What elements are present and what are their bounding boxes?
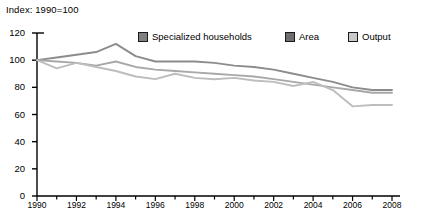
chart-container: Index: 1990=100 Specialized households A… xyxy=(0,0,421,222)
plot-area xyxy=(0,0,421,222)
series-line-specialized-households xyxy=(37,44,392,90)
